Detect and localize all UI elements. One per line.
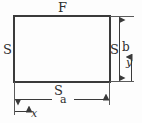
label-right-boundary: S <box>110 43 119 56</box>
label-axis-y: y <box>126 57 132 68</box>
figure-drawing <box>0 0 142 123</box>
figure-container: F S S b y S a x <box>0 0 142 123</box>
label-height-dimension: b <box>122 41 130 53</box>
label-width-dimension: a <box>60 94 67 105</box>
label-top-boundary: F <box>58 1 67 14</box>
label-axis-x: x <box>31 108 37 119</box>
domain-rectangle <box>14 16 110 82</box>
label-left-boundary: S <box>3 43 12 56</box>
